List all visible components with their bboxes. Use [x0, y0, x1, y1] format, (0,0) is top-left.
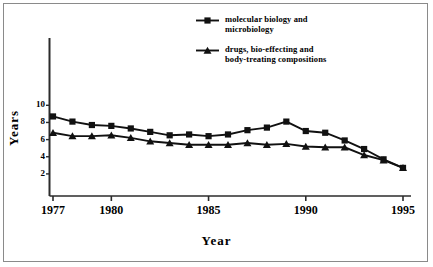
x-tick-label: 1977: [33, 203, 73, 218]
y-tick-label: 8: [27, 116, 45, 126]
x-tick-label: 1985: [189, 203, 229, 218]
y-tick-label: 6: [27, 134, 45, 144]
legend-marker-square: [196, 17, 219, 23]
legend-marker-triangle: [196, 47, 219, 54]
line-chart: [0, 0, 433, 267]
legend-markers: [196, 17, 219, 53]
x-tick-label: 1980: [91, 203, 131, 218]
y-tick-label: 4: [27, 151, 45, 161]
legend-label-molecular-biology: molecular biology and microbiology: [225, 14, 308, 35]
y-axis-title: Years: [6, 93, 22, 163]
x-tick-label: 1990: [286, 203, 326, 218]
x-tick-label: 1995: [383, 203, 423, 218]
series-layer: [49, 113, 407, 171]
legend-label-drugs: drugs, bio-effecting and body-treating c…: [225, 44, 326, 65]
x-axis-title: Year: [0, 233, 433, 249]
y-tick-label: 2: [27, 168, 45, 178]
y-tick-label: 10: [27, 99, 45, 109]
